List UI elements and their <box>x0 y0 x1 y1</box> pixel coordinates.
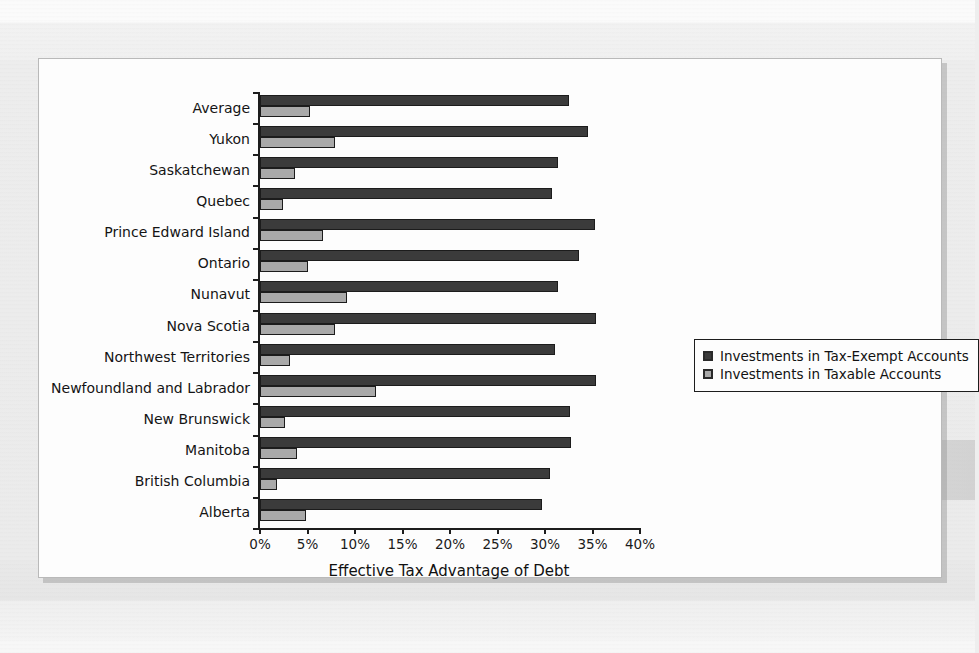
bar-taxable <box>260 106 310 117</box>
y-axis-tick <box>253 123 259 125</box>
category-label: Nova Scotia <box>167 318 250 334</box>
category-label: Newfoundland and Labrador <box>51 380 250 396</box>
y-axis-tick <box>253 310 259 312</box>
legend-label: Investments in Taxable Accounts <box>720 366 941 382</box>
legend-swatch-icon <box>703 351 713 361</box>
x-axis-tick-label: 40% <box>625 536 655 552</box>
category-label: Nunavut <box>191 286 250 302</box>
x-axis-tick <box>402 528 404 534</box>
y-axis-tick <box>253 435 259 437</box>
category-label: Saskatchewan <box>149 162 250 178</box>
y-axis-tick <box>253 279 259 281</box>
bar-taxable <box>260 230 323 241</box>
bar-taxable <box>260 292 347 303</box>
x-axis-tick-label: 10% <box>340 536 370 552</box>
legend-item: Investments in Taxable Accounts <box>703 366 969 382</box>
bar-taxable <box>260 510 306 521</box>
y-axis-tick <box>253 341 259 343</box>
category-label: Ontario <box>198 255 250 271</box>
y-axis-tick <box>253 248 259 250</box>
bar-tax-exempt <box>260 313 596 324</box>
bar-taxable <box>260 137 335 148</box>
category-label: British Columbia <box>135 473 250 489</box>
category-label: Yukon <box>209 131 250 147</box>
y-axis-tick <box>253 403 259 405</box>
bar-tax-exempt <box>260 281 558 292</box>
category-label: Average <box>193 100 251 116</box>
y-axis-tick <box>253 217 259 219</box>
x-axis-tick <box>592 528 594 534</box>
x-axis-tick-label: 20% <box>435 536 465 552</box>
x-axis-title: Effective Tax Advantage of Debt <box>259 562 639 580</box>
bar-taxable <box>260 448 297 459</box>
x-axis-tick <box>259 528 261 534</box>
x-axis-tick-label: 15% <box>387 536 417 552</box>
x-axis-tick-label: 35% <box>577 536 607 552</box>
y-axis-tick <box>253 154 259 156</box>
y-axis-tick <box>253 466 259 468</box>
bar-tax-exempt <box>260 157 558 168</box>
bar-tax-exempt <box>260 188 552 199</box>
bar-tax-exempt <box>260 437 571 448</box>
bar-taxable <box>260 261 308 272</box>
y-axis-tick <box>253 497 259 499</box>
category-label: Manitoba <box>185 442 250 458</box>
bar-taxable <box>260 324 335 335</box>
legend-item: Investments in Tax-Exempt Accounts <box>703 348 969 364</box>
category-label: Northwest Territories <box>104 349 250 365</box>
chart-panel: AverageYukonSaskatchewanQuebecPrince Edw… <box>38 58 942 578</box>
bar-taxable <box>260 479 277 490</box>
x-axis-tick <box>449 528 451 534</box>
x-axis-tick <box>544 528 546 534</box>
bar-tax-exempt <box>260 126 588 137</box>
category-label: Alberta <box>199 504 250 520</box>
bar-tax-exempt <box>260 344 555 355</box>
bar-taxable <box>260 417 285 428</box>
plot-area: AverageYukonSaskatchewanQuebecPrince Edw… <box>259 92 639 528</box>
bar-taxable <box>260 386 376 397</box>
chart-legend: Investments in Tax-Exempt AccountsInvest… <box>694 339 979 392</box>
category-label: New Brunswick <box>143 411 250 427</box>
bar-taxable <box>260 168 295 179</box>
bar-taxable <box>260 199 283 210</box>
bar-tax-exempt <box>260 219 595 230</box>
x-axis-tick <box>307 528 309 534</box>
y-axis-tick <box>253 185 259 187</box>
x-axis-tick-label: 30% <box>530 536 560 552</box>
bar-tax-exempt <box>260 499 542 510</box>
x-axis-tick <box>354 528 356 534</box>
x-axis-tick-label: 5% <box>297 536 318 552</box>
bar-tax-exempt <box>260 250 579 261</box>
x-axis-tick <box>497 528 499 534</box>
bar-taxable <box>260 355 290 366</box>
x-axis-tick-label: 0% <box>249 536 270 552</box>
category-label: Quebec <box>196 193 250 209</box>
y-axis-tick <box>253 92 259 94</box>
x-axis-tick-label: 25% <box>482 536 512 552</box>
legend-swatch-icon <box>703 369 713 379</box>
category-label: Prince Edward Island <box>104 224 250 240</box>
bar-tax-exempt <box>260 406 570 417</box>
bar-tax-exempt <box>260 375 596 386</box>
y-axis-tick <box>253 372 259 374</box>
legend-label: Investments in Tax-Exempt Accounts <box>720 348 969 364</box>
bar-tax-exempt <box>260 95 569 106</box>
x-axis-tick <box>639 528 641 534</box>
bar-tax-exempt <box>260 468 550 479</box>
